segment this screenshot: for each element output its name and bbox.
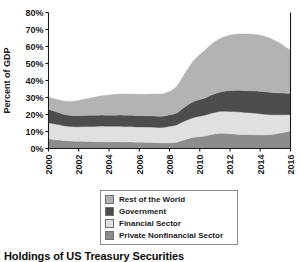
- legend-swatch-icon: [105, 231, 114, 240]
- x-tick-label: 2008: [165, 155, 175, 175]
- chart-legend: Rest of the WorldGovernmentFinancial Sec…: [100, 190, 238, 245]
- x-tick-label: 2014: [256, 155, 266, 175]
- legend-swatch-icon: [105, 207, 114, 216]
- y-tick-label: 20%: [25, 110, 43, 120]
- y-tick-label: 40%: [25, 76, 43, 86]
- x-tick-label: 2010: [195, 155, 205, 175]
- x-tick-label: 2000: [44, 155, 54, 175]
- y-tick-label: 70%: [25, 25, 43, 35]
- legend-item-label: Private Nonfinancial Sector: [119, 231, 223, 240]
- x-axis-tick-labels: 200020022004200620082010201220142016: [44, 155, 296, 175]
- legend-item-label: Financial Sector: [119, 219, 181, 228]
- legend-item: Government: [105, 206, 233, 217]
- y-tick-label: 50%: [25, 59, 43, 69]
- y-tick-label: 80%: [25, 8, 43, 18]
- y-tick-label: 30%: [25, 93, 43, 103]
- x-tick-label: 2002: [74, 155, 84, 175]
- legend-item: Rest of the World: [105, 194, 233, 205]
- x-tick-label: 2012: [225, 155, 235, 175]
- x-tick-label: 2016: [286, 155, 296, 175]
- x-tick-label: 2006: [135, 155, 145, 175]
- legend-item-label: Rest of the World: [119, 195, 185, 204]
- chart-series-group: [49, 34, 291, 149]
- y-tick-label: 60%: [25, 42, 43, 52]
- legend-item-label: Government: [119, 207, 166, 216]
- legend-item: Financial Sector: [105, 218, 233, 229]
- legend-item: Private Nonfinancial Sector: [105, 230, 233, 241]
- legend-swatch-icon: [105, 219, 114, 228]
- y-axis-tick-labels: 0%10%20%30%40%50%60%70%80%: [25, 8, 43, 154]
- figure-title: Holdings of US Treasury Securities: [4, 250, 184, 262]
- y-tick-label: 0%: [30, 144, 43, 154]
- y-axis-label: Percent of GDP: [2, 47, 12, 113]
- y-tick-label: 10%: [25, 127, 43, 137]
- legend-swatch-icon: [105, 195, 114, 204]
- x-tick-label: 2004: [104, 155, 114, 175]
